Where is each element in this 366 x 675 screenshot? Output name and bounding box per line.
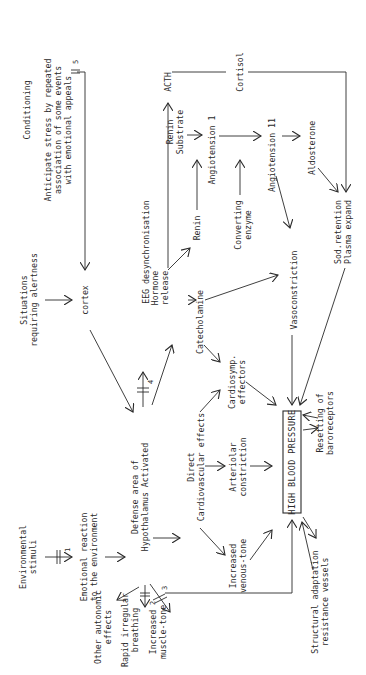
arrow-defense-to-hormone — [152, 345, 172, 405]
node-vasoconstriction: Vasoconstriction — [289, 251, 299, 330]
node-high-blood-pressure: HIGH BLOOD PRESSURE — [287, 409, 297, 514]
block-marker-4: 4 — [146, 380, 156, 384]
block-marker-5: 5 — [71, 60, 81, 64]
node-renin: Renin — [192, 216, 202, 241]
arrow-catecholamine-to-cardiosymp — [204, 345, 220, 362]
node-catecholamine: Catecholamine — [195, 290, 205, 354]
node-angiotension-1: Angiotension 1 — [207, 115, 217, 184]
arrow-direct-to-venous — [200, 528, 225, 555]
arrow-cortex-to-defense — [90, 330, 133, 412]
node-emotional-reaction: Emotional reaction to the environment — [79, 513, 99, 602]
arrow-aldosterone-to-sodium — [318, 168, 338, 192]
node-sodium-retention: Sod.retention Plasma expand — [333, 200, 353, 264]
node-structural-adaptation: Structural adaptation resistance vessels — [310, 550, 330, 654]
node-anticipate-stress: Anticipate stress by repeated associatio… — [43, 59, 73, 202]
node-converting-enzyme: Converting enzyme — [233, 200, 253, 249]
node-hormone-release: Hormone release — [150, 271, 170, 306]
node-increased-muscle-tone: Increased muscle-tone — [148, 605, 168, 659]
node-renin-substrate: Renin Substrate — [165, 110, 185, 154]
node-cardiosymp-effectors: Cardiosymp. effectors — [227, 355, 247, 409]
node-defense-area: Defense area of Hypothalamus Activated — [130, 443, 150, 551]
block-marker-3: 3 — [160, 586, 170, 590]
block-marker-1: 1 — [63, 548, 73, 552]
node-conditioning: Conditioning — [22, 80, 32, 139]
arrow-cardiosymp-to-hbp — [246, 382, 276, 405]
arrow-direct-to-cardiosymp — [200, 390, 220, 412]
node-arteriolar-constriction: Arteriolar constriction — [228, 437, 248, 496]
arrow-sodium-to-hbp — [300, 268, 345, 405]
arrow-hormone-to-renin — [168, 248, 190, 270]
node-direct-cardiovascular: Direct Cardiovascular effects — [186, 413, 206, 521]
node-situations: Situations requiring alertness — [19, 253, 39, 347]
node-cortex: cortex — [80, 285, 90, 315]
arrow-venous-to-hbp — [250, 530, 272, 560]
node-increased-venous-tone: Increased venous-tone — [228, 539, 248, 593]
node-resetting-baroreceptors: Resetting of baroreceptors — [315, 391, 335, 455]
node-acth: ACTH — [163, 72, 173, 92]
node-aldosterone: Aldosterone — [307, 121, 317, 175]
node-angiotension-11: Angiotension 11 — [267, 118, 277, 192]
diagram-canvas: Conditioning Anticipate stress by repeat… — [0, 0, 366, 675]
node-other-autonomic: Other autonomic effects — [93, 590, 113, 664]
node-rapid-breathing: Rapid irregular breathing — [120, 593, 140, 667]
node-environmental-stimuli: Environmental stimuli — [18, 525, 38, 589]
arrow-ang2-to-vasoconstriction — [276, 176, 290, 228]
arrow-catecholamine-to-vasoconstriction — [205, 275, 278, 300]
node-cortisol: Cortisol — [235, 52, 245, 91]
